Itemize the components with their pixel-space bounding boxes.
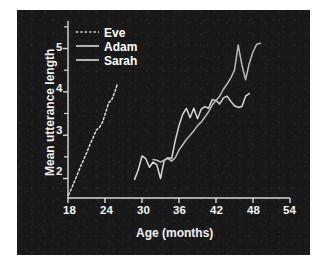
xtick-label-42: 42 [210, 205, 223, 217]
x-axis-title: Age (months) [136, 227, 213, 239]
xtick-label-36: 36 [173, 205, 186, 217]
legend-label-adam: Adam [104, 41, 137, 53]
series-line-adam [135, 94, 250, 180]
chart-figure: 5 4 3 2 18 24 30 36 42 48 54 Mean uttera… [0, 0, 324, 269]
xtick-label-48: 48 [247, 205, 260, 217]
chart-series [69, 43, 261, 195]
series-line-sarah [153, 43, 260, 162]
xtick-label-18: 18 [63, 205, 76, 217]
xtick-label-24: 24 [100, 205, 113, 217]
legend-label-eve: Eve [104, 27, 125, 39]
y-axis-title: Mean utterance length [44, 49, 56, 176]
legend-swatches [76, 32, 99, 60]
legend-label-sarah: Sarah [104, 55, 137, 67]
xtick-label-54: 54 [283, 205, 296, 217]
xtick-label-30: 30 [137, 205, 150, 217]
chart-axes [63, 21, 290, 203]
series-line-eve [69, 84, 118, 195]
